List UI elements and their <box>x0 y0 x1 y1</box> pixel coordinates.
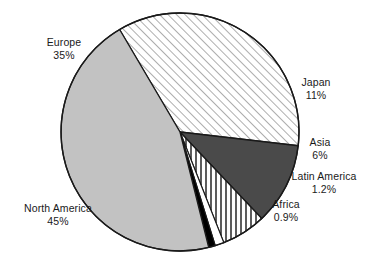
pie-chart-figure: Europe 35% Japan 11% Asia 6% Latin Ameri… <box>0 0 373 261</box>
pie-label-latin-america-name: Latin America <box>278 170 370 183</box>
pie-label-north-america-name: North America <box>6 202 110 215</box>
pie-label-europe-value: 35% <box>22 49 106 62</box>
pie-label-europe: Europe 35% <box>22 36 106 61</box>
pie-label-latin-america-value: 1.2% <box>278 183 370 196</box>
pie-label-latin-america: Latin America 1.2% <box>278 170 370 195</box>
pie-label-europe-name: Europe <box>22 36 106 49</box>
pie-label-asia: Asia 6% <box>296 136 344 161</box>
pie-label-africa-name: Africa <box>258 198 314 211</box>
pie-label-north-america: North America 45% <box>6 202 110 227</box>
pie-label-africa-value: 0.9% <box>258 211 314 224</box>
pie-label-asia-name: Asia <box>296 136 344 149</box>
pie-label-asia-value: 6% <box>296 149 344 162</box>
pie-label-north-america-value: 45% <box>6 215 110 228</box>
pie-label-japan-name: Japan <box>288 76 344 89</box>
pie-label-japan: Japan 11% <box>288 76 344 101</box>
pie-label-japan-value: 11% <box>288 89 344 102</box>
pie-label-africa: Africa 0.9% <box>258 198 314 223</box>
